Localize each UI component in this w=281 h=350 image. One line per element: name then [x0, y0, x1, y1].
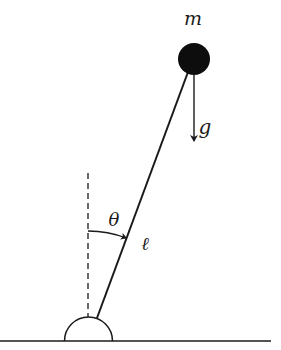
pendulum-bob — [178, 43, 210, 75]
gravity-label: g — [199, 115, 212, 139]
angle-arc-icon — [88, 231, 126, 238]
mass-label: m — [184, 7, 202, 29]
length-label: ℓ — [141, 233, 149, 254]
pendulum-diagram: m g θ ℓ — [0, 0, 281, 350]
pendulum-rod — [97, 72, 188, 318]
pivot-semicircle — [65, 317, 113, 341]
angle-label: θ — [109, 209, 120, 230]
